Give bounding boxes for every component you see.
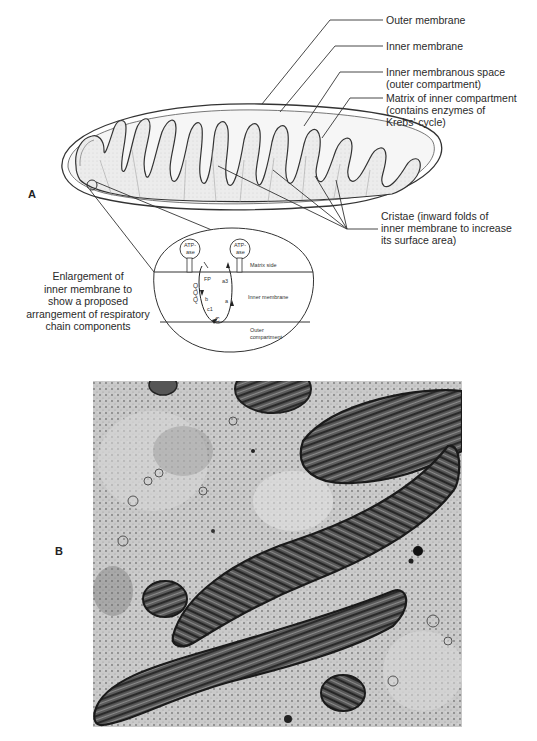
inset-inner-membrane-label: Inner membrane <box>248 294 288 300</box>
electron-micrograph <box>93 381 462 727</box>
matrix-label-2: (contains enzymes of <box>386 104 485 117</box>
cytochrome-c1-label: c1 <box>207 306 213 312</box>
cristae-label-3: its surface area) <box>381 234 456 247</box>
enlargement-caption-line-5: chain components <box>22 320 154 333</box>
inner-membranous-space-label-2: (outer compartment) <box>386 78 481 91</box>
cytochrome-c-label: C <box>215 316 220 323</box>
enlargement-caption-line-2: inner membrane to <box>22 283 154 296</box>
enlargement-caption-line-3: show a proposed <box>22 295 154 308</box>
panel-a-letter: A <box>28 188 36 200</box>
outer-compartment-label-1: Outer <box>250 327 264 333</box>
cytochrome-a3-label: a3 <box>222 278 228 284</box>
enlargement-caption: Enlargement of inner membrane to show a … <box>22 270 154 333</box>
outer-membrane-label: Outer membrane <box>386 14 465 27</box>
q-label-3: Q <box>193 296 198 304</box>
inner-membranous-space-label-1: Inner membranous space <box>386 66 505 79</box>
micrograph-rendering <box>93 381 462 727</box>
cytochrome-a-label: a <box>225 298 229 304</box>
atpase-left-label-1: ATP- <box>184 242 196 248</box>
atpase-right-label-2: ase <box>236 249 245 255</box>
matrix-label-1: Matrix of inner compartment <box>386 92 517 105</box>
cristae-label-2: inner membrane to increase <box>381 222 512 235</box>
atpase-right-label-1: ATP- <box>234 242 246 248</box>
fp-label: FP <box>204 276 211 282</box>
enlargement-caption-line-4: arrangement of respiratory <box>22 308 154 321</box>
panel-b-letter: B <box>55 545 63 557</box>
enlargement-caption-line-1: Enlargement of <box>22 270 154 283</box>
matrix-side-label: Matrix side <box>250 262 277 268</box>
outer-compartment-label-2: compartment <box>250 334 283 340</box>
cristae-label-1: Cristae (inward folds of <box>381 210 488 223</box>
matrix-label-3: Krebs' cycle) <box>386 116 446 129</box>
atpase-left-label-2: ase <box>186 249 195 255</box>
inner-membrane-label: Inner membrane <box>386 40 463 53</box>
cytochrome-b-label: b <box>205 296 208 302</box>
